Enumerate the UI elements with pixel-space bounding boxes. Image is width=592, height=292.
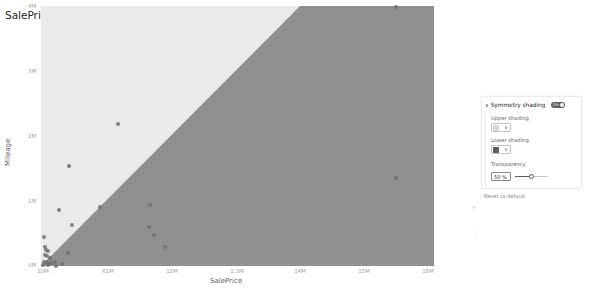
upper-shading-label: Upper shading (491, 115, 529, 121)
y-tick: 2M (28, 133, 40, 139)
chevron-down-icon: ∨ (485, 102, 489, 108)
data-point[interactable] (46, 263, 50, 267)
pin-icon[interactable]: ✦ (471, 204, 477, 212)
chevron-down-icon: ∨ (504, 146, 508, 152)
data-point[interactable] (116, 122, 120, 126)
data-point[interactable] (98, 205, 102, 209)
data-point[interactable] (48, 256, 52, 260)
symmetry-shading-header[interactable]: ∨ Symmetry shading (485, 102, 545, 108)
reset-to-default-link[interactable]: Reset to default (484, 193, 525, 199)
data-point[interactable] (67, 164, 71, 168)
upper-color-swatch (493, 125, 499, 131)
plot-area (0, 0, 440, 292)
data-point[interactable] (66, 251, 70, 255)
data-point[interactable] (54, 264, 58, 268)
x-tick: 15M (358, 268, 370, 274)
x-tick: 61M (102, 268, 114, 274)
toggle-label: On (553, 102, 559, 108)
transparency-unit: % (502, 174, 507, 180)
toggle-knob (560, 103, 564, 107)
data-point[interactable] (70, 223, 74, 227)
lower-shading-label: Lower shading (491, 137, 529, 143)
upper-shading-color-picker[interactable]: ∨ (491, 123, 511, 132)
data-point[interactable] (147, 225, 151, 229)
transparency-value: 50 (494, 174, 500, 180)
y-tick: 3M (28, 68, 40, 74)
y-tick: 1M (28, 198, 40, 204)
data-point[interactable] (46, 249, 50, 253)
data-point[interactable] (148, 203, 152, 207)
x-tick: 10M (37, 268, 49, 274)
section-title: Symmetry shading (491, 102, 546, 108)
data-point[interactable] (41, 263, 45, 267)
data-point[interactable] (394, 176, 398, 180)
lower-shading-color-picker[interactable]: ∨ (491, 145, 511, 154)
data-point[interactable] (42, 235, 46, 239)
more-options-icon[interactable]: ⋮ (472, 230, 479, 238)
y-axis-label: Mileage (4, 139, 12, 166)
lower-color-swatch (493, 147, 499, 153)
chevron-down-icon: ∨ (504, 124, 508, 130)
data-point[interactable] (394, 5, 398, 9)
x-tick: 14M (294, 268, 306, 274)
shading-options: Upper shading ∨ Lower shading ∨ Transpar… (485, 113, 580, 187)
transparency-slider[interactable] (515, 176, 548, 177)
x-axis-label: SalePrice (210, 277, 242, 285)
x-tick: 12M (166, 268, 178, 274)
data-point[interactable] (53, 260, 57, 264)
data-point[interactable] (152, 233, 156, 237)
transparency-input[interactable]: 50 % (491, 172, 511, 181)
data-point[interactable] (57, 208, 61, 212)
scatter-chart[interactable]: 4M 3M 2M 1M 0M 10M 61M 12M 1.3M 14M 15M … (0, 0, 440, 292)
x-tick: 16M (422, 268, 434, 274)
transparency-label: Transparency (491, 161, 526, 167)
slider-thumb[interactable] (529, 174, 534, 179)
y-tick: 4M (28, 3, 40, 9)
symmetry-shading-card: ∨ Symmetry shading On Upper shading ∨ Lo… (481, 96, 582, 189)
symmetry-shading-toggle[interactable]: On (551, 102, 565, 108)
x-tick: 1.3M (230, 268, 244, 274)
data-point[interactable] (163, 245, 167, 249)
format-pane: ∨ Symmetry shading On Upper shading ∨ Lo… (481, 96, 582, 202)
data-point[interactable] (60, 262, 64, 266)
